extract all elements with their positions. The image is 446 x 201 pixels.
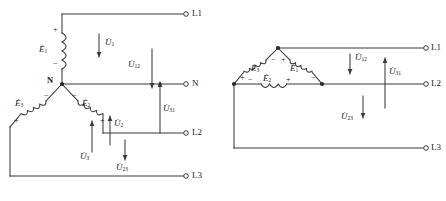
star-voltage-label-u23: U̇23 [116,163,128,172]
star-emf-e1-subscript: 1 [45,48,48,54]
star-voltage-label-u2: U̇2 [114,119,123,128]
delta-emf-label-e1: Ė1 [290,64,298,73]
delta-terminal-l3-circle [424,146,429,151]
star-node-n-dot [60,82,64,86]
star-e2-plus-sign: + [100,117,105,125]
star-e3-plus-sign: + [14,117,19,125]
delta-voltage-label-u23: U̇23 [341,112,353,121]
star-terminal-l2-circle [184,131,189,136]
delta-e3-minus-sign: − [271,56,276,64]
delta-e3-plus-sign: + [240,74,245,82]
star-e2-minus-sign: − [72,92,77,100]
star-emf-label-e3: Ė3 [15,99,23,108]
star-voltage-label-u1: U̇1 [105,38,114,47]
star-emf-e2-subscript: 2 [88,102,91,108]
delta-node-apex-dot [276,46,280,50]
delta-terminal-l2-circle [424,82,429,87]
figure-canvas: L1 N L2 L3 N + − Ė1 − + Ė3 − + Ė2 U̇1 U̇… [0,0,446,201]
delta-terminal-label-l1: L1 [431,43,441,52]
delta-e1-plus-sign: + [281,56,286,64]
delta-e2-minus-sign: − [248,76,253,84]
star-coil-e3 [21,101,46,115]
delta-terminal-label-l2: L2 [431,79,441,88]
delta-coil-e2 [261,84,287,88]
delta-e1-minus-sign: − [311,74,316,82]
star-terminal-label-l1: L1 [192,9,202,18]
delta-emf-label-e2: Ė2 [263,74,271,83]
star-terminal-l3-circle [184,174,189,179]
star-emf-label-e1: Ė1 [39,45,47,54]
star-emf-label-e2: Ė2 [82,99,90,108]
star-terminal-l1-circle [184,12,189,17]
star-e1-plus-sign: + [53,26,58,34]
star-terminal-label-n: N [192,79,199,88]
star-terminal-label-l2: L2 [192,128,202,137]
star-voltage-label-u3: U̇3 [80,152,89,161]
star-terminal-n-circle [184,82,189,87]
star-emf-e3-subscript: 3 [21,102,24,108]
star-voltage-label-u12: U̇12 [128,60,140,69]
star-e1-minus-sign: − [53,60,58,68]
circuit-drawing [0,0,446,201]
delta-voltage-label-u12: U̇12 [355,53,367,62]
star-neutral-node-label: N [47,76,53,85]
star-voltage-label-u31: U̇31 [163,104,175,113]
delta-terminal-l1-circle [424,46,429,51]
star-e3-minus-sign: − [44,92,49,100]
delta-voltage-label-u31: U̇31 [389,67,401,76]
delta-node-right-dot [320,82,324,86]
delta-emf-label-e3: Ė3 [251,64,259,73]
delta-e2-plus-sign: + [286,76,291,84]
star-node-u31-top-dot [159,83,162,86]
star-terminal-label-l3: L3 [192,171,202,180]
delta-node-left-dot [232,82,236,86]
delta-terminal-label-l3: L3 [431,143,441,152]
star-coil-e1 [62,33,66,69]
